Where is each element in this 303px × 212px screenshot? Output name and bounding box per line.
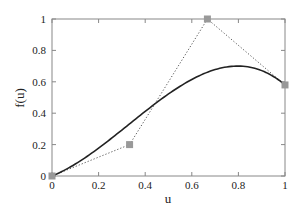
x-tick-label: 0.2 [92, 179, 106, 191]
chart: 00.20.40.60.8100.20.40.60.81 u f(u) [0, 0, 303, 212]
y-tick-label: 0.4 [32, 107, 46, 119]
y-axis-label: f(u) [12, 88, 27, 108]
y-tick-label: 0.2 [32, 139, 46, 151]
axis-ticks: 00.20.40.60.8100.20.40.60.81 [32, 13, 288, 191]
plot-frame [52, 19, 285, 176]
x-axis-label: u [165, 191, 172, 206]
y-tick-label: 0.8 [32, 44, 46, 56]
control-polygon [52, 19, 285, 176]
y-tick-label: 0 [41, 170, 47, 182]
x-tick-label: 1 [282, 179, 288, 191]
control-point [282, 81, 289, 88]
control-point [49, 173, 56, 180]
x-tick-label: 0.4 [138, 179, 152, 191]
x-tick-label: 0.6 [185, 179, 199, 191]
x-tick-label: 0 [49, 179, 55, 191]
control-point [204, 16, 211, 23]
y-tick-label: 1 [41, 13, 47, 25]
y-tick-label: 0.6 [32, 76, 46, 88]
x-tick-label: 0.8 [232, 179, 246, 191]
control-point-markers [49, 16, 289, 180]
control-point [126, 141, 133, 148]
